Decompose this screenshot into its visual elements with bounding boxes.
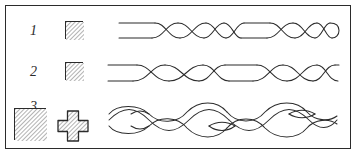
open-plait-braid-drawing [105, 96, 340, 144]
medium-twisted-cord-drawing [107, 57, 340, 89]
hatched-square-large-icon [15, 109, 47, 141]
hatched-square-icon [66, 22, 84, 40]
row-label-2: 2 [30, 65, 37, 79]
swatch-cross-row-3 [57, 110, 89, 142]
braid-row-2 [107, 57, 340, 89]
braid-row-1 [118, 16, 340, 46]
tight-twisted-cord-drawing [118, 16, 340, 46]
hatched-square-icon [66, 63, 84, 81]
swatch-square-row-1 [65, 21, 83, 39]
row-label-1: 1 [30, 24, 37, 38]
figure-root: 1 [0, 0, 358, 156]
hatched-cross-icon [57, 110, 89, 142]
braid-row-3 [105, 96, 340, 144]
swatch-square-row-3 [14, 108, 46, 140]
swatch-square-row-2 [65, 62, 83, 80]
